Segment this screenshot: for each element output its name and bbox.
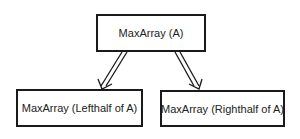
node-right-half: MaxArray (Righthalf of A) — [160, 90, 285, 127]
node-root: MaxArray (A) — [96, 14, 206, 52]
node-root-label: MaxArray (A) — [119, 27, 184, 39]
arrow-root-to-left — [98, 52, 127, 89]
arrow-root-to-right — [175, 52, 202, 89]
node-left-label: MaxArray (Lefthalf of A) — [22, 102, 138, 114]
node-left-half: MaxArray (Lefthalf of A) — [16, 89, 143, 127]
node-right-label: MaxArray (Righthalf of A) — [161, 103, 284, 115]
